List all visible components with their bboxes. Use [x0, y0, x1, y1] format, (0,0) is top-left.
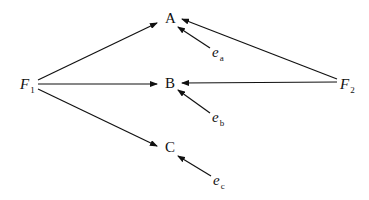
path-diagram: F1 A B C F2 ea eb ec [0, 0, 369, 200]
node-f2-sub: 2 [350, 85, 355, 95]
node-f1-sub: 1 [30, 85, 35, 95]
node-ec: ec [213, 173, 225, 191]
node-ea-base: e [212, 44, 219, 60]
edge-eb-b [178, 90, 210, 113]
node-ec-base: e [213, 172, 220, 188]
node-eb-base: e [212, 109, 219, 125]
node-f1-base: F [20, 76, 29, 92]
node-f1: F1 [20, 77, 35, 95]
node-eb: eb [212, 110, 224, 128]
node-f2-base: F [340, 76, 349, 92]
node-ea-sub: a [220, 53, 224, 63]
edge-f1-a [38, 23, 157, 80]
edges-layer [0, 0, 369, 200]
node-eb-sub: b [220, 118, 225, 128]
node-a: A [165, 11, 176, 26]
edge-ea-a [178, 27, 210, 48]
node-ea: ea [212, 45, 224, 63]
node-b: B [165, 76, 175, 91]
node-c: C [165, 140, 175, 155]
node-ec-sub: c [221, 181, 225, 191]
edge-ec-c [178, 156, 211, 176]
edge-f1-c [38, 89, 157, 146]
node-f2: F2 [340, 77, 355, 95]
edge-f2-a [182, 19, 337, 79]
edge-f2-b [182, 82, 337, 83]
